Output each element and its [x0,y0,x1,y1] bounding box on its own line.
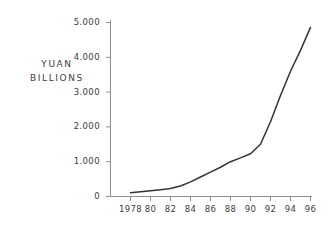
y-axis-tick-label-3000: 3.000 [58,87,100,97]
x-axis-tick-label-1992: 92 [260,204,281,214]
y-axis-ticks [106,23,111,197]
x-axis-tick-label-1984: 84 [180,204,201,214]
x-axis-tick-label-1988: 88 [220,204,241,214]
x-axis-tick-label-1986: 86 [200,204,221,214]
data-series-line [131,27,311,192]
x-axis-tick-label-1990: 90 [240,204,261,214]
y-axis-tick-label-0: 0 [58,191,100,201]
x-axis-tick-label-1994: 94 [280,204,301,214]
y-axis-tick-label-2000: 2.000 [58,121,100,131]
y-axis-title-line-2: BILLIONS [14,71,100,85]
y-axis-tick-label-1000: 1.000 [58,156,100,166]
chart-plot-area [0,0,333,230]
x-axis-ticks [131,197,311,202]
x-axis-tick-label-1996: 96 [300,204,321,214]
chart-container: 0 1.000 2.000 3.000 4.000 5.000 1978 80 … [0,0,333,230]
x-axis-tick-label-1980: 80 [140,204,161,214]
y-axis-title-line-1: YUAN [14,57,100,71]
y-axis-title: YUAN BILLIONS [14,57,100,85]
y-axis-tick-label-5000: 5.000 [58,17,100,27]
x-axis-tick-label-1982: 82 [160,204,181,214]
